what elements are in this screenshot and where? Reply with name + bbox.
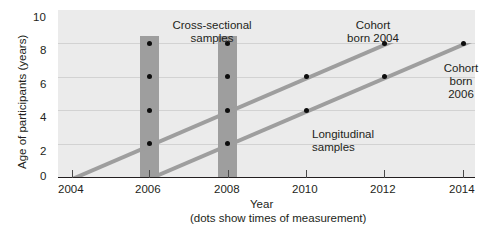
ytick-label-0: 0	[40, 170, 46, 182]
x-axis-title: Year	[250, 198, 273, 210]
data-point	[225, 74, 230, 79]
ytick-label-6: 6	[40, 78, 46, 90]
vertical-band-2006	[140, 36, 159, 177]
xtick-label-2008: 2008	[214, 183, 240, 195]
data-point	[461, 41, 466, 46]
ytick-label-2: 2	[40, 145, 46, 157]
data-point	[304, 108, 309, 113]
annotation-cohort-2004-line1: Cohort	[333, 19, 413, 32]
annotation-longitudinal-line1: Longitudinal	[312, 128, 402, 141]
data-point	[225, 108, 230, 113]
ytick-label-4: 4	[40, 111, 46, 123]
annotation-cohort-2006-line3: 2006	[432, 88, 490, 101]
chart-figure: 10 8 6 4 2 0 2004 2006 2008 2010 2012 20…	[0, 0, 500, 232]
vertical-band-2008	[218, 36, 237, 177]
annotation-cohort-2006-line1: Cohort	[432, 62, 490, 75]
annotation-cohort-2004: Cohort born 2004	[333, 19, 413, 45]
data-point	[304, 74, 309, 79]
xtick-label-2012: 2012	[370, 183, 396, 195]
xtick-label-2004: 2004	[58, 183, 84, 195]
xtick-label-2014: 2014	[449, 183, 475, 195]
annotation-cross-sectional-line1: Cross-sectional	[158, 19, 266, 32]
annotation-cross-sectional-line2: samples	[158, 32, 266, 45]
annotation-cohort-2006: Cohort born 2006	[432, 62, 490, 101]
data-point	[147, 108, 152, 113]
data-point	[147, 41, 152, 46]
data-point	[225, 141, 230, 146]
ytick-label-8: 8	[40, 44, 46, 56]
xtick-label-2010: 2010	[292, 183, 318, 195]
data-point	[147, 74, 152, 79]
diagonal-band-cohort-2006	[149, 43, 472, 177]
annotation-longitudinal: Longitudinal samples	[312, 128, 402, 154]
ytick-label-10: 10	[33, 11, 46, 23]
annotation-cohort-2004-line2: born 2004	[333, 32, 413, 45]
annotation-longitudinal-line2: samples	[312, 141, 402, 154]
data-point	[382, 74, 387, 79]
x-axis-subtitle: (dots show times of measurement)	[190, 212, 366, 224]
annotation-cohort-2006-line2: born	[432, 75, 490, 88]
xtick-label-2006: 2006	[135, 183, 161, 195]
data-point	[147, 141, 152, 146]
y-axis-title: Age of participants (years)	[16, 35, 28, 169]
annotation-cross-sectional: Cross-sectional samples	[158, 19, 266, 45]
